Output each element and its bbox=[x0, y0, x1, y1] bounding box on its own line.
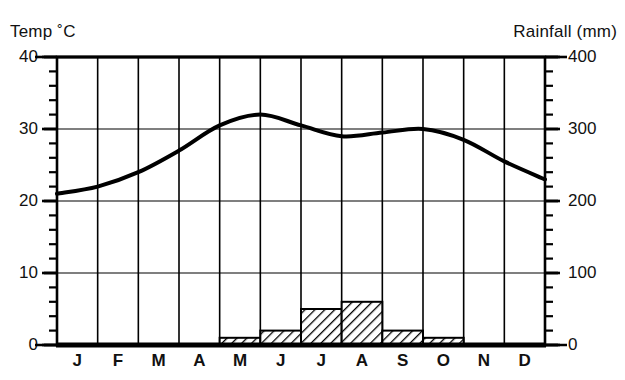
plot-area bbox=[0, 0, 625, 380]
gridlines bbox=[57, 57, 545, 345]
climograph-chart: Temp ˚C Rainfall (mm) 40 30 20 10 0 400 … bbox=[0, 0, 625, 380]
rainfall-bars bbox=[220, 302, 464, 345]
